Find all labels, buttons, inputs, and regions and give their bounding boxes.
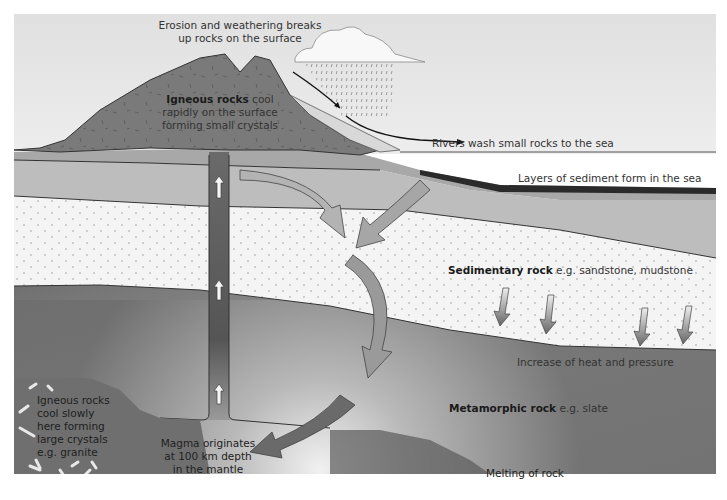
metamorphic-title: Metamorphic rock [449, 402, 556, 414]
melting-label: Melting of rock [486, 467, 564, 480]
magma-line: at 100 km depth [148, 450, 268, 463]
igneous-surface-line: rapidly on the surface [150, 106, 290, 119]
erosion-label-line: up rocks on the surface [140, 32, 340, 45]
metamorphic-examples: e.g. slate [556, 402, 608, 414]
magma-label: Magma originates at 100 km depth in the … [148, 437, 268, 476]
heat-pressure-label: Increase of heat and pressure [517, 356, 674, 369]
sedimentary-rock-label: Sedimentary rock e.g. sandstone, mudston… [448, 264, 693, 277]
igneous-deep-line: cool slowly [37, 407, 110, 420]
sedimentary-title: Sedimentary rock [448, 264, 553, 276]
igneous-surface-label: Igneous rocks cool rapidly on the surfac… [150, 93, 290, 132]
magma-line: Magma originates [148, 437, 268, 450]
igneous-deep-label: Igneous rocks cool slowly here forming l… [37, 394, 110, 459]
sedimentary-examples: e.g. sandstone, mudstone [553, 264, 693, 276]
igneous-deep-line: Igneous rocks [37, 394, 110, 407]
rivers-label: Rivers wash small rocks to the sea [432, 137, 614, 150]
erosion-label-line: Erosion and weathering breaks [140, 19, 340, 32]
igneous-deep-line: here forming [37, 420, 110, 433]
igneous-surface-text: cool [249, 93, 274, 105]
igneous-deep-line: e.g. granite [37, 446, 110, 459]
metamorphic-rock-label: Metamorphic rock e.g. slate [449, 402, 608, 415]
igneous-deep-line: large crystals [37, 433, 110, 446]
igneous-surface-title: Igneous rocks [166, 93, 248, 105]
magma-line: in the mantle [148, 463, 268, 476]
igneous-surface-line: forming small crystals [150, 119, 290, 132]
sediment-layers-label: Layers of sediment form in the sea [518, 172, 702, 185]
erosion-label: Erosion and weathering breaks up rocks o… [140, 19, 340, 45]
